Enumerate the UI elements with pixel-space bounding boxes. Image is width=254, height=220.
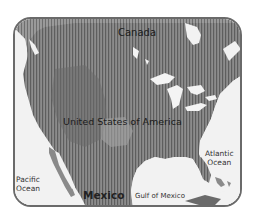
label-usa: United States of America [63,117,182,127]
label-atlantic-line2: Ocean [205,159,234,168]
label-gulf-of-mexico: Gulf of Mexico [135,192,185,200]
north-america-map [15,19,242,207]
label-canada: Canada [118,28,156,38]
map-frame: Canada United States of America Mexico G… [13,17,242,207]
label-pacific-line2: Ocean [16,185,40,194]
label-mexico: Mexico [83,190,124,201]
label-atlantic-ocean: Atlantic Ocean [205,150,234,167]
label-pacific-ocean: Pacific Ocean [16,176,40,193]
